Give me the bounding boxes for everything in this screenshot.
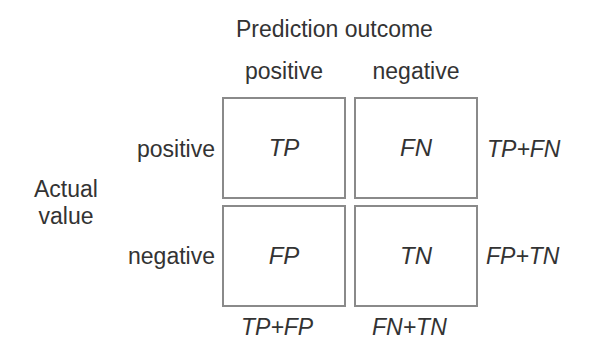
column-label-positive: positive <box>222 58 346 85</box>
column-total-negative: FN+TN <box>372 314 447 341</box>
cell-false-positive: FP <box>222 205 346 307</box>
cell-fn-label: FN <box>400 134 432 162</box>
row-total-positive: TP+FN <box>487 136 560 163</box>
cell-true-positive: TP <box>222 97 346 199</box>
cell-tn-label: TN <box>400 242 432 270</box>
prediction-outcome-title: Prediction outcome <box>236 16 433 43</box>
cell-tp-label: TP <box>269 134 300 162</box>
actual-value-title: Actual value <box>20 176 112 230</box>
cell-false-negative: FN <box>354 97 478 199</box>
actual-value-title-line1: Actual <box>20 176 112 203</box>
row-label-negative: negative <box>5 243 215 270</box>
column-label-negative: negative <box>354 58 478 85</box>
actual-value-title-line2: value <box>20 203 112 230</box>
cell-true-negative: TN <box>354 205 478 307</box>
row-label-positive: positive <box>5 136 215 163</box>
row-total-negative: FP+TN <box>486 243 559 270</box>
column-total-positive: TP+FP <box>241 314 313 341</box>
cell-fp-label: FP <box>269 242 300 270</box>
